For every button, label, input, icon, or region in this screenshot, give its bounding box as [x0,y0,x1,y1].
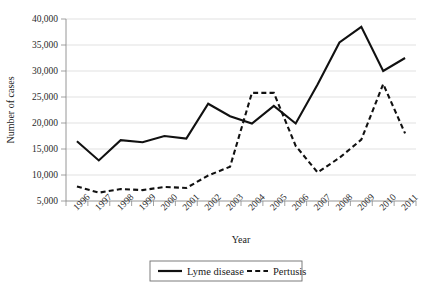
xtick-label-2007: 2007 [312,192,333,213]
xtick-label-2001: 2001 [181,192,202,213]
xtick-label-2000: 2000 [159,192,180,213]
ytick-label-30000: 30,000 [32,66,58,76]
legend: Lyme disease Pertusis [150,261,306,281]
series-line-pertusis [77,84,405,193]
ytick-label-10000: 10,000 [32,170,58,180]
y-tick-marks [61,19,66,201]
gridlines [66,19,416,175]
xtick-label-2006: 2006 [290,192,311,213]
xtick-label-2002: 2002 [203,192,224,213]
line-chart: 40,000 35,000 30,000 25,000 20,000 15,00… [0,0,429,295]
ytick-label-25000: 25,000 [32,92,58,102]
xtick-label-2005: 2005 [268,192,289,213]
y-tick-labels: 40,000 35,000 30,000 25,000 20,000 15,00… [32,14,58,206]
xtick-label-1996: 1996 [71,192,92,213]
x-axis-title: Year [232,234,251,245]
legend-label-pertusis: Pertusis [273,266,306,277]
xtick-label-2011: 2011 [399,192,419,212]
xtick-label-2004: 2004 [246,192,267,213]
xtick-label-1997: 1997 [93,192,114,213]
xtick-label-1998: 1998 [115,192,136,213]
ytick-label-5000: 5,000 [37,196,59,206]
ytick-label-15000: 15,000 [32,144,58,154]
chart-figure: 40,000 35,000 30,000 25,000 20,000 15,00… [0,0,429,295]
xtick-label-2003: 2003 [224,192,245,213]
x-tick-labels: 1996199719981999200020012002200320042005… [71,192,420,213]
ytick-label-20000: 20,000 [32,118,58,128]
xtick-label-2010: 2010 [378,192,399,213]
series-line-lyme-disease [77,27,405,161]
xtick-label-1999: 1999 [137,192,158,213]
xtick-label-2008: 2008 [334,192,355,213]
ytick-label-40000: 40,000 [32,14,58,24]
legend-label-lyme-disease: Lyme disease [187,266,244,277]
ytick-label-35000: 35,000 [32,40,58,50]
y-axis-title: Number of cases [5,76,16,143]
xtick-label-2009: 2009 [356,192,377,213]
